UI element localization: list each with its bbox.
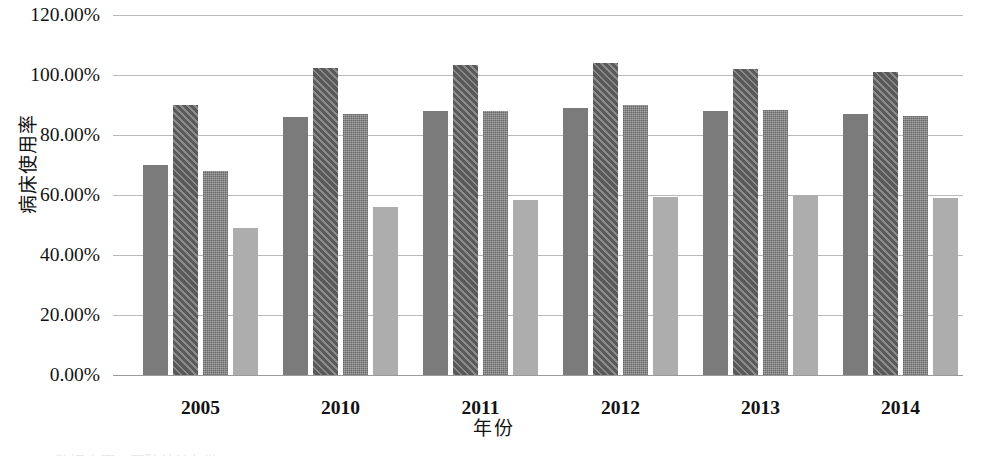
bar-2010-series-3[interactable]	[343, 114, 368, 375]
bar-2014-series-1[interactable]	[843, 114, 868, 375]
y-axis-tick-label: 20.00%	[0, 305, 100, 325]
bar-group-2010	[283, 15, 403, 375]
bar-2014-series-3[interactable]	[903, 116, 928, 376]
gridline-0	[113, 375, 963, 376]
bar-2013-series-3[interactable]	[763, 110, 788, 376]
bar-2012-series-4[interactable]	[653, 197, 678, 376]
clipped-caption: 数据来源：医院统计年鉴	[0, 450, 987, 456]
y-axis-tick-label: 0.00%	[0, 365, 100, 385]
clipped-caption-text: 数据来源：医院统计年鉴	[0, 450, 987, 456]
bar-2014-series-4[interactable]	[933, 198, 958, 375]
bar-2005-series-2[interactable]	[173, 105, 198, 375]
y-axis-tick-label: 60.00%	[0, 185, 100, 205]
plot-area: 0.00%20.00%40.00%60.00%80.00%100.00%120.…	[113, 15, 963, 375]
bar-2012-series-2[interactable]	[593, 63, 618, 375]
bar-group-2014	[843, 15, 963, 375]
bar-group-2012	[563, 15, 683, 375]
bar-2010-series-4[interactable]	[373, 207, 398, 375]
y-axis-tick-label: 120.00%	[0, 5, 100, 25]
bar-2013-series-1[interactable]	[703, 111, 728, 375]
bar-2014-series-2[interactable]	[873, 72, 898, 375]
y-axis-tick-label: 80.00%	[0, 125, 100, 145]
bar-2010-series-1[interactable]	[283, 117, 308, 375]
bar-group-2011	[423, 15, 543, 375]
x-axis-title: 年份	[0, 413, 987, 440]
bar-2005-series-3[interactable]	[203, 171, 228, 375]
y-axis-title: 病床使用率	[13, 84, 40, 244]
bar-2005-series-4[interactable]	[233, 228, 258, 375]
bar-2013-series-2[interactable]	[733, 69, 758, 375]
bar-2011-series-4[interactable]	[513, 200, 538, 376]
bar-2005-series-1[interactable]	[143, 165, 168, 375]
bar-2010-series-2[interactable]	[313, 68, 338, 376]
bar-chart: 病床使用率 0.00%20.00%40.00%60.00%80.00%100.0…	[0, 0, 987, 456]
bar-2011-series-3[interactable]	[483, 111, 508, 375]
bar-2011-series-1[interactable]	[423, 111, 448, 375]
bar-group-2005	[143, 15, 263, 375]
y-axis-tick-label: 100.00%	[0, 65, 100, 85]
bar-2013-series-4[interactable]	[793, 195, 818, 375]
bar-2012-series-1[interactable]	[563, 108, 588, 375]
bar-group-2013	[703, 15, 823, 375]
y-axis-tick-label: 40.00%	[0, 245, 100, 265]
bar-2012-series-3[interactable]	[623, 105, 648, 375]
bar-2011-series-2[interactable]	[453, 65, 478, 376]
